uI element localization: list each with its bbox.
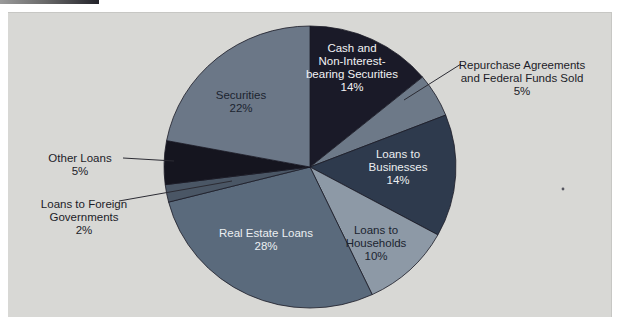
pie-chart: Cash andNon-Interest-bearing Securities1… [0,0,618,317]
pie-label-repurchase-agreements-and-federal-funds-sold: Repurchase Agreementsand Federal Funds S… [459,59,586,97]
stray-mark [562,188,565,191]
pie-label-other-loans: Other Loans5% [48,152,112,177]
pie-label-loans-to-foreign-governments: Loans to ForeignGovernments2% [41,198,127,236]
